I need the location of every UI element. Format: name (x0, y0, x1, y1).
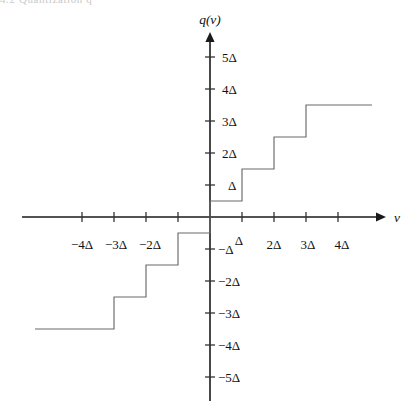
y-axis-label: q(v) (199, 12, 221, 27)
y-axis-arrowhead (205, 32, 214, 42)
x-tick-label-1: Δ (235, 233, 243, 248)
x-tick-label-2: 2Δ (267, 237, 282, 252)
x-tick-label--4: −4Δ (71, 237, 93, 252)
y-tick-label-2: 2Δ (222, 146, 237, 161)
chart-svg: v q(v) 5Δ 4Δ 3Δ 2Δ Δ −Δ −2Δ −3Δ −4Δ −5Δ … (0, 0, 420, 412)
y-tick-label--1: −Δ (218, 242, 234, 257)
axes-group (22, 32, 386, 401)
x-tick-label--2: −2Δ (139, 237, 161, 252)
y-tick-label--4: −4Δ (218, 338, 240, 353)
x-tick-label--3: −3Δ (105, 237, 127, 252)
y-tick-label--2: −2Δ (218, 274, 240, 289)
x-tick-label-4: 4Δ (335, 237, 350, 252)
y-tick-label-4: 4Δ (222, 82, 237, 97)
y-tick-label--5: −5Δ (218, 370, 240, 385)
y-tick-label--3: −3Δ (218, 306, 240, 321)
x-axis-label: v (394, 210, 400, 225)
quantizer-staircase-figure: v q(v) 5Δ 4Δ 3Δ 2Δ Δ −Δ −2Δ −3Δ −4Δ −5Δ … (0, 0, 420, 412)
y-tick-label-5: 5Δ (222, 50, 237, 65)
y-tick-label-1: Δ (228, 178, 236, 193)
y-tick-label-3: 3Δ (222, 114, 237, 129)
x-tick-label-3: 3Δ (301, 237, 316, 252)
x-axis-arrowhead (376, 212, 386, 221)
